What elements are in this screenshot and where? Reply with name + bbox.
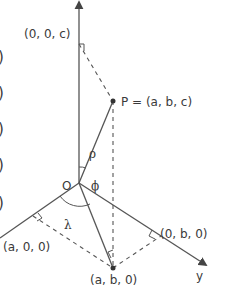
label-lambda: λ — [64, 218, 72, 232]
spherical-coordinates-diagram: ) ) ) ) ) (0, 0, c) P = (a, b, c) ρ O ϕ … — [0, 0, 233, 290]
left-edge-fragments: ) ) ) ) ) — [0, 48, 4, 212]
label-y-projection: (0, b, 0) — [160, 227, 208, 241]
label-z-projection: (0, 0, c) — [24, 27, 71, 41]
label-phi: ϕ — [91, 179, 99, 193]
y-axis — [79, 183, 206, 265]
label-point-p: P = (a, b, c) — [121, 95, 192, 109]
label-xy-projection: (a, b, 0) — [90, 273, 137, 287]
label-x-projection: (a, 0, 0) — [3, 240, 50, 254]
label-y-axis: y — [196, 269, 203, 283]
dashed-lines — [33, 44, 161, 268]
point-xy — [111, 266, 116, 271]
paren-fragment: ) — [0, 48, 4, 66]
right-angle-x — [37, 213, 42, 221]
point-p — [111, 99, 116, 104]
projection-line — [79, 183, 113, 268]
paren-fragment: ) — [0, 156, 4, 174]
label-origin: O — [62, 179, 71, 193]
paren-fragment: ) — [0, 194, 4, 212]
paren-fragment: ) — [0, 84, 4, 102]
rho-vector — [79, 101, 113, 183]
paren-fragment: ) — [0, 120, 4, 138]
label-rho: ρ — [89, 147, 96, 161]
dashed-z-to-p — [79, 44, 113, 101]
dashed-y-to-xy — [113, 236, 161, 268]
